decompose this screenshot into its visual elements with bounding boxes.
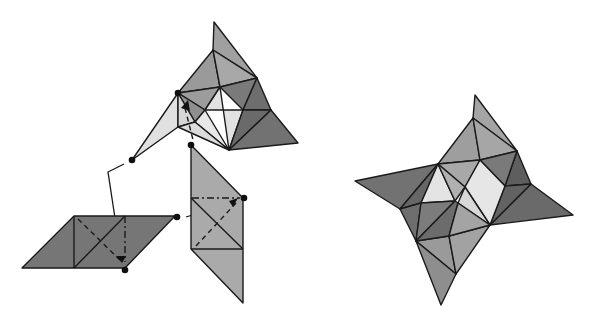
panel-face (22, 216, 175, 268)
diagram-canvas (0, 0, 595, 324)
facet (132, 93, 178, 160)
horizontal-panel (22, 214, 180, 274)
folding-diagram (0, 0, 595, 324)
vertex-dot (122, 267, 129, 274)
partial-star (129, 22, 298, 163)
vertex-dot (188, 142, 195, 149)
connector-line (108, 164, 124, 218)
vertex-dot (175, 90, 182, 97)
completed-star (355, 95, 573, 305)
vertex-dot (174, 214, 181, 221)
vertex-dot (129, 157, 136, 164)
vertex-dot (241, 195, 248, 202)
vertical-panel (188, 142, 248, 303)
